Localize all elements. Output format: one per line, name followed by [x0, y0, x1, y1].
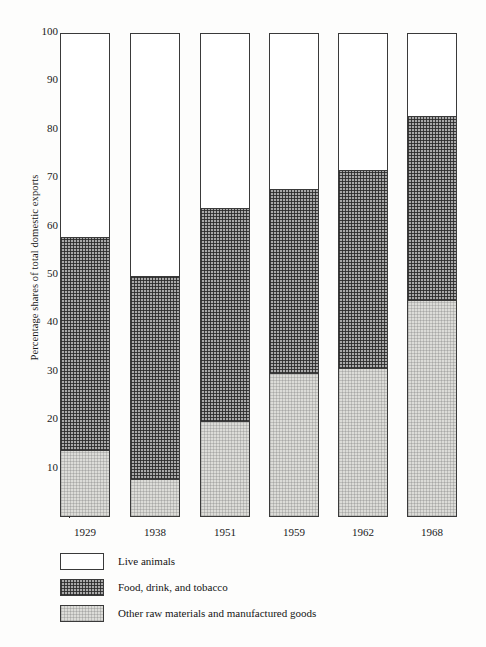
y-axis-tick-label: 10 [20, 462, 58, 473]
segment-food-drink-tobacco [408, 116, 456, 300]
segment-live-animals [339, 34, 387, 170]
y-axis-tick-label: 90 [20, 74, 58, 85]
segment-food-drink-tobacco [61, 237, 109, 450]
y-axis-tick-label: 80 [20, 123, 58, 134]
y-axis-tick-label: 100 [20, 26, 58, 37]
chart-legend: Live animalsFood, drink, and tobaccoOthe… [60, 548, 480, 626]
y-axis-tick-label: 50 [20, 268, 58, 279]
segment-other-raw-materials [339, 368, 387, 516]
y-axis-tick-label: 60 [20, 220, 58, 231]
segment-other-raw-materials [61, 450, 109, 516]
segment-live-animals [201, 34, 249, 208]
segment-other-raw-materials [408, 300, 456, 516]
legend-label-other-raw-materials: Other raw materials and manufactured goo… [118, 607, 316, 619]
segment-other-raw-materials [270, 373, 318, 516]
x-axis-label-1968: 1968 [402, 526, 462, 538]
legend-item-live-animals: Live animals [60, 548, 480, 574]
segment-live-animals [408, 34, 456, 116]
stacked-bar-1938 [130, 33, 180, 517]
segment-other-raw-materials [131, 479, 179, 516]
segment-food-drink-tobacco [131, 276, 179, 479]
legend-swatch-other-raw-materials [60, 605, 104, 622]
segment-other-raw-materials [201, 421, 249, 516]
segment-live-animals [131, 34, 179, 276]
y-axis-tick-label: 30 [20, 365, 58, 376]
legend-label-live-animals: Live animals [118, 555, 175, 567]
segment-live-animals [270, 34, 318, 189]
legend-label-food-drink-tobacco: Food, drink, and tobacco [118, 581, 228, 593]
stacked-bar-1962 [338, 33, 388, 517]
x-axis-label-1959: 1959 [264, 526, 324, 538]
y-axis-tick-label: 20 [20, 413, 58, 424]
segment-live-animals [61, 34, 109, 237]
legend-swatch-live-animals [60, 553, 104, 570]
segment-food-drink-tobacco [201, 208, 249, 421]
legend-item-other-raw-materials: Other raw materials and manufactured goo… [60, 600, 480, 626]
legend-item-food-drink-tobacco: Food, drink, and tobacco [60, 574, 480, 600]
x-axis-label-1951: 1951 [195, 526, 255, 538]
y-axis-tick-label: 70 [20, 171, 58, 182]
legend-swatch-food-drink-tobacco [60, 579, 104, 596]
stacked-bar-1959 [269, 33, 319, 517]
stacked-bar-1951 [200, 33, 250, 517]
x-axis-label-1938: 1938 [125, 526, 185, 538]
plot-area: Percentage shares of total domestic expo… [0, 0, 486, 560]
chart-page: Percentage shares of total domestic expo… [0, 0, 486, 647]
x-axis-label-1962: 1962 [333, 526, 393, 538]
stacked-bar-1968 [407, 33, 457, 517]
x-axis-label-1929: 1929 [55, 526, 115, 538]
segment-food-drink-tobacco [339, 170, 387, 368]
stacked-bar-1929 [60, 33, 110, 517]
y-axis-tick-label: 40 [20, 316, 58, 327]
segment-food-drink-tobacco [270, 189, 318, 373]
